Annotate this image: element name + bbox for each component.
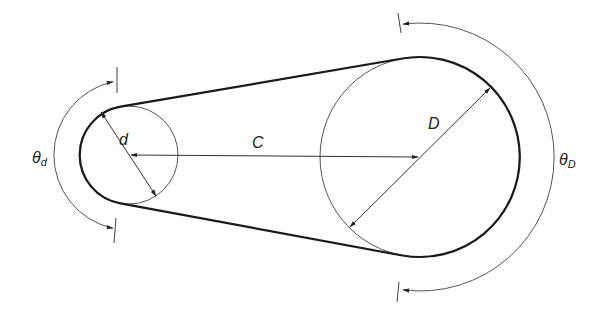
center-distance-dimension	[131, 155, 418, 157]
small-diameter-dimension	[101, 112, 156, 196]
label-center-distance: C	[252, 134, 264, 151]
wrap-angle-large-tick-top	[398, 13, 401, 33]
label-small-diameter: d	[119, 131, 129, 148]
label-large-diameter: D	[428, 115, 440, 132]
label-theta-small: θd	[32, 149, 48, 168]
large-diameter-dimension	[350, 88, 490, 227]
wrap-angle-large-tick-bottom	[397, 282, 399, 302]
belt	[80, 57, 520, 257]
wrap-angle-small-tick-bottom	[114, 218, 116, 243]
label-theta-large: θD	[559, 151, 576, 170]
wrap-angle-large-arc	[403, 23, 554, 291]
wrap-angle-small-arc	[54, 82, 113, 229]
belt-drive-diagram: d D C θd θD	[0, 0, 606, 312]
